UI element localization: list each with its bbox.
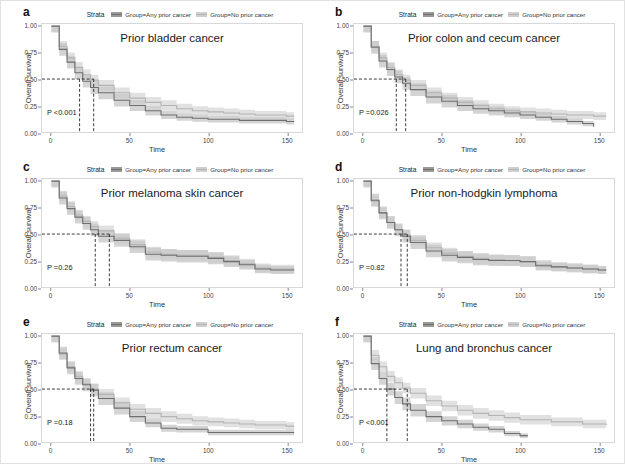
plot-area-b: 0.000.250.500.751.00050100150Prior colon…: [353, 23, 615, 133]
legend-title: Strata: [87, 321, 105, 328]
legend-label-any-prior: Group=Any prior cancer: [125, 166, 191, 173]
x-tick-0: 0: [49, 137, 53, 144]
x-axis-label: Time: [1, 300, 313, 309]
x-tick-0: 0: [361, 137, 365, 144]
panel-letter-d: d: [335, 160, 342, 174]
y-tick-0: 0.00: [337, 440, 349, 447]
y-tick-4: 1.00: [337, 332, 349, 339]
legend-label-no-prior: Group=No prior cancer: [522, 11, 585, 18]
p-value-f: P <0.001: [359, 418, 389, 427]
legend-entry-no-prior[interactable]: Group=No prior cancer: [196, 166, 273, 173]
x-tick-3: 150: [594, 137, 605, 144]
legend-label-any-prior: Group=Any prior cancer: [437, 321, 503, 328]
panel-letter-a: a: [23, 5, 30, 19]
legend-title: Strata: [87, 11, 105, 18]
x-tick-2: 100: [515, 292, 526, 299]
legend-key-no-prior-icon: [508, 167, 519, 172]
y-tick-0: 0.00: [25, 440, 37, 447]
x-tick-1: 50: [438, 447, 445, 454]
p-value-d: P =0.82: [359, 263, 385, 272]
p-value-e: P =0.18: [47, 418, 73, 427]
legend-entry-no-prior[interactable]: Group=No prior cancer: [196, 11, 273, 18]
panel-title-e: Prior rectum cancer: [42, 342, 302, 354]
legend-entry-any-prior[interactable]: Group=Any prior cancer: [423, 11, 503, 18]
panel-c: cStrataGroup=Any prior cancerGroup=No pr…: [1, 156, 313, 310]
legend-key-no-prior-icon: [196, 167, 207, 172]
legend-label-no-prior: Group=No prior cancer: [210, 321, 273, 328]
panel-title-d: Prior non-hodgkin lymphoma: [354, 187, 614, 199]
legend-label-no-prior: Group=No prior cancer: [522, 166, 585, 173]
x-tick-1: 50: [126, 137, 133, 144]
panel-letter-e: e: [23, 315, 30, 329]
x-tick-1: 50: [126, 292, 133, 299]
legend-key-no-prior-icon: [508, 322, 519, 327]
legend-entry-no-prior[interactable]: Group=No prior cancer: [196, 321, 273, 328]
legend-entry-no-prior[interactable]: Group=No prior cancer: [508, 11, 585, 18]
legend-label-any-prior: Group=Any prior cancer: [437, 166, 503, 173]
plot-canvas-c: Prior melanoma skin cancerP =0.26: [41, 178, 303, 288]
y-tick-1: 0.25: [25, 413, 37, 420]
legend-key-any-prior-icon: [423, 322, 434, 327]
panel-letter-b: b: [335, 5, 342, 19]
legend-entry-any-prior[interactable]: Group=Any prior cancer: [111, 321, 191, 328]
x-tick-1: 50: [126, 447, 133, 454]
x-tick-3: 150: [594, 447, 605, 454]
legend-entry-no-prior[interactable]: Group=No prior cancer: [508, 321, 585, 328]
x-tick-2: 100: [203, 292, 214, 299]
plot-canvas-b: Prior colon and cecum cancerP =0.026: [353, 23, 615, 133]
y-tick-0: 0.00: [25, 285, 37, 292]
legend-entry-any-prior[interactable]: Group=Any prior cancer: [423, 166, 503, 173]
x-tick-3: 150: [282, 292, 293, 299]
panel-b: bStrataGroup=Any prior cancerGroup=No pr…: [313, 1, 625, 155]
y-tick-2: 0.50: [25, 386, 37, 393]
survival-figure: aStrataGroup=Any prior cancerGroup=No pr…: [0, 0, 625, 464]
y-tick-4: 1.00: [337, 22, 349, 29]
panel-e: eStrataGroup=Any prior cancerGroup=No pr…: [1, 311, 313, 464]
y-tick-1: 0.25: [25, 103, 37, 110]
legend-entry-no-prior[interactable]: Group=No prior cancer: [508, 166, 585, 173]
legend-key-any-prior-icon: [423, 12, 434, 17]
y-tick-2: 0.50: [337, 231, 349, 238]
x-axis-label: Time: [313, 145, 625, 154]
y-tick-4: 1.00: [337, 177, 349, 184]
x-tick-3: 150: [594, 292, 605, 299]
p-value-a: P <0.001: [47, 108, 77, 117]
x-tick-2: 100: [515, 137, 526, 144]
legend-c: StrataGroup=Any prior cancerGroup=No pri…: [53, 162, 307, 176]
legend-title: Strata: [399, 166, 417, 173]
panel-title-a: Prior bladder cancer: [42, 32, 302, 44]
legend-label-any-prior: Group=Any prior cancer: [437, 11, 503, 18]
y-tick-2: 0.50: [25, 231, 37, 238]
x-tick-2: 100: [203, 447, 214, 454]
y-tick-3: 0.75: [337, 204, 349, 211]
legend-entry-any-prior[interactable]: Group=Any prior cancer: [111, 11, 191, 18]
legend-e: StrataGroup=Any prior cancerGroup=No pri…: [53, 317, 307, 331]
x-axis-label: Time: [313, 455, 625, 464]
legend-key-any-prior-icon: [111, 322, 122, 327]
legend-entry-any-prior[interactable]: Group=Any prior cancer: [111, 166, 191, 173]
panel-title-f: Lung and bronchus cancer: [354, 342, 614, 354]
x-tick-3: 150: [282, 137, 293, 144]
legend-label-no-prior: Group=No prior cancer: [210, 11, 273, 18]
y-tick-3: 0.75: [337, 49, 349, 56]
panel-d: dStrataGroup=Any prior cancerGroup=No pr…: [313, 156, 625, 310]
plot-canvas-f: Lung and bronchus cancerP <0.001: [353, 333, 615, 443]
y-tick-4: 1.00: [25, 332, 37, 339]
y-tick-4: 1.00: [25, 22, 37, 29]
y-tick-1: 0.25: [337, 103, 349, 110]
legend-key-no-prior-icon: [196, 322, 207, 327]
x-tick-1: 50: [438, 292, 445, 299]
x-tick-0: 0: [49, 292, 53, 299]
y-tick-3: 0.75: [25, 204, 37, 211]
legend-key-any-prior-icon: [111, 167, 122, 172]
y-tick-3: 0.75: [25, 49, 37, 56]
legend-label-no-prior: Group=No prior cancer: [522, 321, 585, 328]
plot-area-a: 0.000.250.500.751.00050100150Prior bladd…: [41, 23, 303, 133]
legend-entry-any-prior[interactable]: Group=Any prior cancer: [423, 321, 503, 328]
panel-letter-f: f: [335, 315, 339, 329]
legend-key-no-prior-icon: [196, 12, 207, 17]
x-tick-2: 100: [203, 137, 214, 144]
plot-canvas-a: Prior bladder cancerP <0.001: [41, 23, 303, 133]
y-tick-0: 0.00: [337, 285, 349, 292]
y-tick-3: 0.75: [337, 359, 349, 366]
